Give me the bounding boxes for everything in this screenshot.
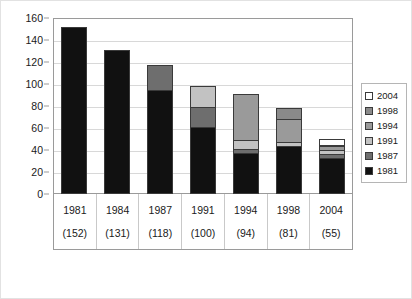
legend-label: 1994 (377, 121, 398, 131)
y-axis-tick-label: 0 (37, 188, 43, 200)
legend-item-1994[interactable]: 1994 (365, 118, 403, 133)
y-axis-tick-mark (44, 62, 49, 63)
legend-swatch-icon (365, 122, 373, 130)
bar-1994[interactable] (233, 94, 259, 194)
bar-segment-1998-1981[interactable] (276, 146, 302, 194)
y-axis-tick-label: 80 (31, 100, 43, 112)
legend-label: 1991 (377, 136, 398, 146)
x-axis-cell-1984: 1984(131) (97, 194, 140, 249)
legend-item-2004[interactable]: 2004 (365, 88, 403, 103)
x-axis-count-label: (152) (63, 227, 88, 239)
y-axis-tick-mark (44, 128, 49, 129)
bar-segment-1987-1987[interactable] (147, 65, 173, 90)
x-axis-count-label: (118) (148, 227, 172, 239)
bar-1991[interactable] (190, 86, 216, 194)
x-axis-count-label: (100) (191, 227, 216, 239)
x-axis-cell-1994: 1994(94) (225, 194, 268, 249)
bar-1981[interactable] (61, 27, 87, 194)
y-axis-tick-mark (44, 172, 49, 173)
x-axis-tick-label: 1994 (234, 204, 257, 216)
x-axis-count-label: (94) (236, 227, 255, 239)
bar-segment-1998-1994[interactable] (276, 119, 302, 143)
y-axis-tick-mark (44, 106, 49, 107)
legend-swatch-icon (365, 107, 373, 115)
x-axis: 1981(152)1984(131)1987(118)1991(100)1994… (53, 194, 353, 250)
legend-swatch-icon (365, 152, 373, 160)
y-axis-tick-label: 160 (25, 12, 43, 24)
bar-segment-1991-1981[interactable] (190, 127, 216, 194)
y-axis: 020406080100120140160 (1, 18, 49, 194)
legend-label: 1987 (377, 151, 398, 161)
y-axis-tick-label: 60 (31, 122, 43, 134)
x-axis-count-label: (131) (105, 227, 130, 239)
x-axis-count-label: (55) (322, 227, 341, 239)
y-axis-tick-mark (44, 18, 49, 19)
y-axis-tick-label: 20 (31, 166, 43, 178)
bar-segment-1981-1981[interactable] (61, 27, 87, 194)
x-axis-tick-label: 1987 (149, 204, 172, 216)
legend-swatch-icon (365, 137, 373, 145)
legend-label: 1981 (377, 166, 398, 176)
bar-1984[interactable] (104, 50, 130, 194)
x-axis-cell-1991: 1991(100) (182, 194, 225, 249)
x-axis-cell-1981: 1981(152) (54, 194, 97, 249)
y-axis-tick-mark (44, 40, 49, 41)
y-axis-tick-label: 100 (25, 78, 43, 90)
bar-2004[interactable] (319, 139, 345, 194)
bar-segment-1987-1981[interactable] (147, 90, 173, 195)
y-axis-tick-label: 120 (25, 56, 43, 68)
bar-1998[interactable] (276, 108, 302, 194)
legend-label: 2004 (377, 91, 398, 101)
bar-1987[interactable] (147, 65, 173, 194)
bar-segment-1994-1981[interactable] (233, 153, 259, 194)
legend-swatch-icon (365, 167, 373, 175)
x-axis-cell-1987: 1987(118) (139, 194, 182, 249)
legend-label: 1998 (377, 106, 398, 116)
legend-item-1987[interactable]: 1987 (365, 148, 403, 163)
chart-figure: 020406080100120140160 1981(152)1984(131)… (0, 0, 412, 299)
y-axis-tick-label: 140 (25, 34, 43, 46)
chart-legend: 200419981994199119871981 (361, 83, 407, 183)
bar-segment-1984-1981[interactable] (104, 50, 130, 194)
legend-swatch-icon (365, 92, 373, 100)
x-axis-tick-label: 2004 (319, 204, 342, 216)
legend-item-1991[interactable]: 1991 (365, 133, 403, 148)
x-axis-count-label: (81) (279, 227, 298, 239)
legend-item-1998[interactable]: 1998 (365, 103, 403, 118)
y-axis-tick-mark (44, 194, 49, 195)
bars-layer (53, 18, 353, 194)
x-axis-cell-1998: 1998(81) (268, 194, 311, 249)
y-axis-tick-mark (44, 84, 49, 85)
bar-segment-1994-1994[interactable] (233, 94, 259, 141)
x-axis-cell-2004: 2004(55) (310, 194, 352, 249)
bar-segment-1991-1991[interactable] (190, 86, 216, 108)
y-axis-tick-mark (44, 150, 49, 151)
x-axis-tick-label: 1998 (277, 204, 300, 216)
x-axis-tick-label: 1984 (106, 204, 129, 216)
bar-segment-1991-1987[interactable] (190, 107, 216, 128)
x-axis-tick-label: 1981 (63, 204, 86, 216)
x-axis-tick-label: 1991 (191, 204, 214, 216)
legend-item-1981[interactable]: 1981 (365, 163, 403, 178)
y-axis-tick-label: 40 (31, 144, 43, 156)
bar-segment-2004-1981[interactable] (319, 158, 345, 194)
